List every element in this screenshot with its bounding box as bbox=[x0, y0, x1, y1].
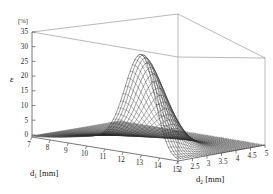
z-tick-5: 10 bbox=[21, 102, 29, 110]
z-tick-6: 5 bbox=[24, 117, 28, 125]
surface-plot-figure: 35 30 25 20 15 10 5 0 [%] ε 7 bbox=[0, 0, 273, 194]
y-tick-1: 2.5 bbox=[191, 163, 200, 171]
y-tick-3: 3.5 bbox=[219, 158, 228, 166]
x-tick-3: 10 bbox=[81, 150, 89, 158]
z-tick-0: 35 bbox=[21, 28, 29, 36]
x-tick-2: 9 bbox=[64, 147, 68, 155]
z-axis-label-epsilon: ε bbox=[10, 74, 14, 84]
y-tick-6: 5 bbox=[265, 150, 269, 158]
z-axis bbox=[32, 32, 36, 137]
x-tick-5: 12 bbox=[118, 156, 126, 164]
y-tick-2: 3 bbox=[207, 160, 211, 168]
z-tick-4: 15 bbox=[21, 87, 29, 95]
z-axis-unit: [%] bbox=[18, 17, 28, 25]
y-tick-5: 4.5 bbox=[248, 152, 257, 160]
surface-mesh bbox=[32, 54, 265, 159]
x-tick-6: 13 bbox=[136, 159, 144, 167]
z-tick-7: 0 bbox=[24, 131, 28, 139]
x-tick-4: 11 bbox=[99, 153, 106, 161]
z-tick-1: 30 bbox=[21, 43, 29, 51]
y-axis-title: d2 [mm] bbox=[196, 174, 224, 185]
y-tick-0: 2 bbox=[178, 166, 182, 174]
y-tick-4: 4 bbox=[236, 155, 240, 163]
x-tick-0: 7 bbox=[27, 141, 31, 149]
plot-canvas: 35 30 25 20 15 10 5 0 [%] ε 7 bbox=[0, 0, 273, 194]
x-tick-7: 14 bbox=[154, 162, 162, 170]
x-axis-title: d1 [mm] bbox=[30, 168, 58, 179]
z-tick-3: 20 bbox=[21, 72, 29, 80]
z-tick-2: 25 bbox=[21, 58, 29, 66]
x-tick-1: 8 bbox=[46, 144, 50, 152]
